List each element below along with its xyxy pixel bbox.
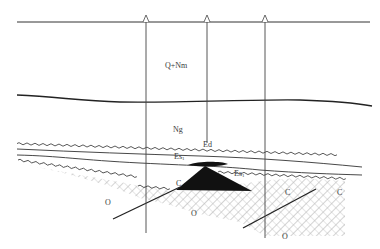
well-2[interactable]	[204, 15, 210, 143]
label-es1-right: Es1	[234, 170, 245, 178]
label-es1-right-base: Es	[234, 169, 242, 178]
label-q-nm: Q+Nm	[165, 62, 187, 70]
label-ed: Ed	[203, 141, 212, 149]
label-c-right: C	[337, 189, 342, 197]
label-c-mid: C	[285, 189, 290, 197]
label-o-mid: O	[191, 210, 197, 218]
label-es1-left-sub: 1	[182, 156, 185, 161]
label-es1-left-base: Es	[174, 152, 182, 161]
label-o-right: O	[282, 233, 288, 241]
label-es1-left: Es1	[174, 153, 185, 161]
horizon-qnm-ng	[17, 95, 372, 106]
black-lens	[188, 162, 228, 167]
well-3-triangle-icon	[262, 15, 268, 22]
label-es1-right-sub: 1	[242, 173, 245, 178]
geological-cross-section: Q+Nm Ng Ed Es1 Es1 C C C O O O	[0, 0, 380, 249]
well-2-triangle-icon	[204, 15, 210, 22]
well-1-triangle-icon	[143, 15, 149, 22]
label-c-left: C	[176, 180, 181, 188]
label-ng: Ng	[173, 126, 183, 134]
cross-section-drawing	[0, 0, 380, 249]
label-o-left: O	[105, 199, 111, 207]
well-1[interactable]	[143, 15, 149, 233]
